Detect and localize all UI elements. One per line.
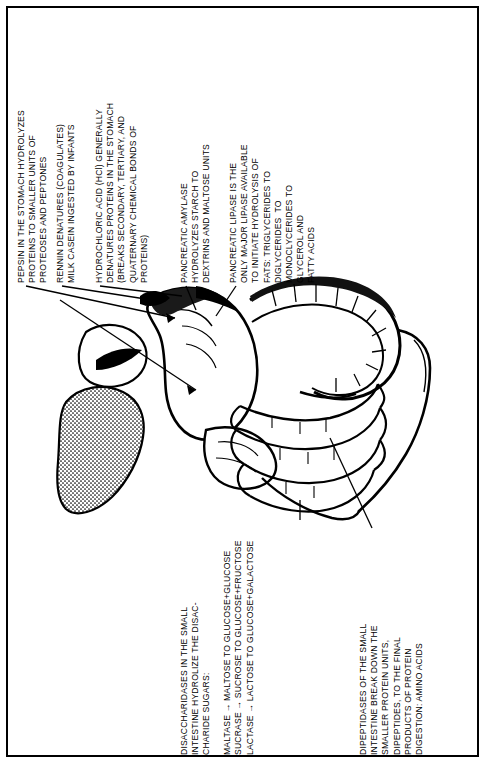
diagram-page: PEPSIN IN THE STOMACH HYDROLYZES PROTEIN… <box>0 0 485 763</box>
pancreatic-lipase-caption: PANCREATIC LIPASE IS THE ONLY MAJOR LIPA… <box>228 144 318 283</box>
dipeptidases-caption: DIPEPTIDASES OF THE SMALL INTESTINE BREA… <box>358 624 425 755</box>
large-intestine <box>262 330 430 519</box>
disaccharidases-caption: DISACCHARIDASES IN THE SMALL INTESTINE H… <box>179 602 213 755</box>
pancreatic-amylase-caption: PANCREATIC AMYLASE HYDROLYZES STARCH TO … <box>179 144 213 283</box>
pepsin-caption: PEPSIN IN THE STOMACH HYDROLYZES PROTEIN… <box>16 110 50 283</box>
stomach <box>147 286 257 440</box>
rennin-caption: RENNIN DENATURES (COAGULATES) MILK CASEI… <box>55 124 77 283</box>
sugar-reactions-caption: MALTASE → MALTOSE TO GLUCOSE+GLUCOSE SUC… <box>222 540 256 755</box>
hydrochloric-acid-caption: HYDROCHLORIC ACID (HCl) GENERALLY DENATU… <box>94 103 150 283</box>
liver-organ <box>57 387 143 513</box>
duodenum <box>250 277 400 400</box>
